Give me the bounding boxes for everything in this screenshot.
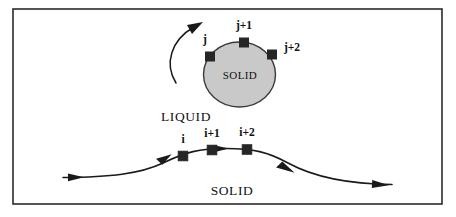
node-label-j-plus-2: j+2 [283, 41, 300, 54]
node-marker-j [206, 52, 215, 61]
figure-root: SOLID j j+1 j+2 LIQUID SOLID i i+1 i+2 [0, 0, 456, 217]
node-marker-j-plus-2 [268, 50, 277, 59]
figure-border [13, 9, 442, 204]
node-label-i-plus-2: i+2 [239, 126, 255, 138]
particle-solid-label: SOLID [223, 69, 257, 81]
phase-label-solid: SOLID [211, 183, 254, 198]
phase-label-liquid: LIQUID [161, 109, 211, 124]
node-label-i-plus-1: i+1 [204, 127, 220, 139]
diagram-canvas: SOLID j j+1 j+2 LIQUID SOLID i i+1 i+2 [0, 0, 456, 217]
node-marker-j-plus-1 [240, 38, 249, 47]
node-marker-i-plus-1 [207, 145, 217, 155]
node-marker-i-plus-2 [242, 145, 252, 155]
node-label-j: j [202, 33, 207, 46]
node-marker-i [178, 151, 188, 161]
node-label-j-plus-1: j+1 [235, 19, 252, 32]
